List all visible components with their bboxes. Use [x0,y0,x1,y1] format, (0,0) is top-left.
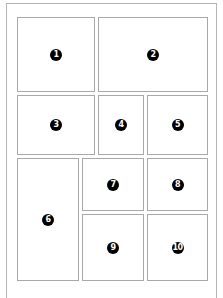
panel-number-badge: 3 [50,119,62,131]
panel-2: 2 [98,17,208,92]
panel-number-badge: 2 [147,49,159,61]
panel-number-badge: 6 [42,214,54,226]
panel-6: 6 [17,158,79,281]
panel-7: 7 [82,158,144,211]
panel-number-badge: 1 [50,49,62,61]
panel-8: 8 [147,158,208,211]
panel-number-badge: 7 [107,179,119,191]
panel-9: 9 [82,214,144,281]
panel-3: 3 [17,95,95,155]
panel-number-badge: 4 [115,119,127,131]
panel-1: 1 [17,17,95,92]
panel-number-badge: 9 [107,242,119,254]
panel-number-badge: 10 [172,242,184,254]
panel-4: 4 [98,95,144,155]
panel-number-badge: 5 [172,119,184,131]
panel-10: 10 [147,214,208,281]
panel-5: 5 [147,95,208,155]
panel-number-badge: 8 [172,179,184,191]
